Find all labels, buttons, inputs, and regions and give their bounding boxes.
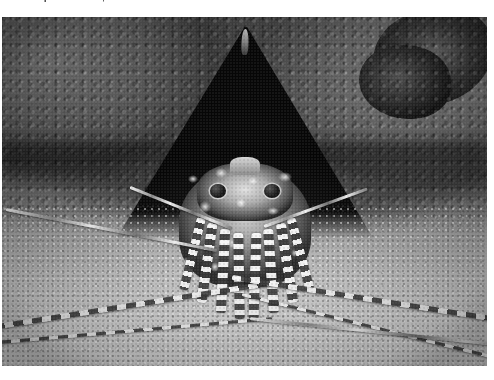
photo-canvas [2, 17, 487, 366]
lobster-eye-left [210, 184, 226, 198]
lobster-leg-right-1 [249, 233, 262, 319]
lobster-antenna-right-thin [250, 317, 487, 348]
spiny-lobster [2, 17, 487, 366]
photo-caption: Lobster reported absent, a number of ani… [1, 0, 193, 2]
lobster-eye-right [264, 184, 280, 198]
photograph [2, 17, 487, 366]
caption-strip: Lobster reported absent, a number of ani… [0, 0, 494, 17]
